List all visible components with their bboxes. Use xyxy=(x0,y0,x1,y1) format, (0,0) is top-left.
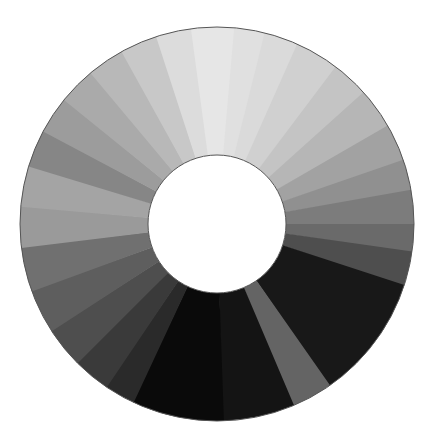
center-hole xyxy=(148,155,286,293)
donut-ring xyxy=(0,0,432,446)
tone-ring-figure xyxy=(0,0,432,446)
